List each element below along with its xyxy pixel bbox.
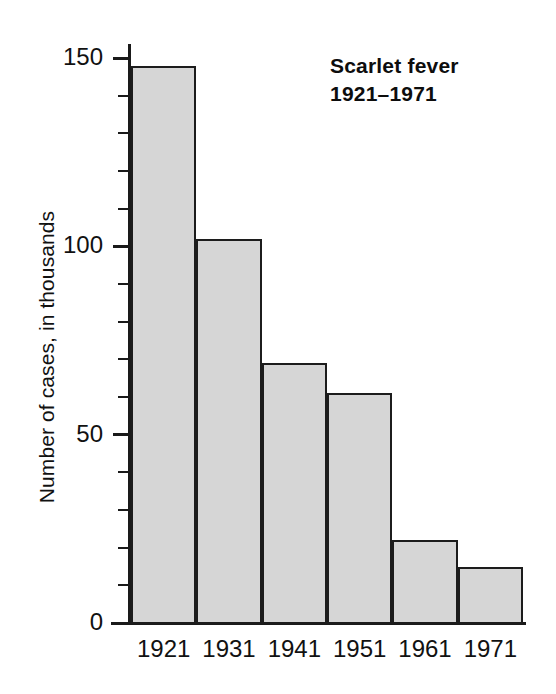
y-axis-tick-label: 0 [33, 610, 103, 634]
y-axis-tick-label-wrap: 100 [33, 246, 103, 247]
y-axis-tick-label-wrap: 0 [33, 623, 103, 624]
x-axis-tick-label-1951: 1951 [327, 636, 392, 661]
y-axis-minor-tick [118, 283, 131, 285]
x-axis-tick-label-1971: 1971 [458, 636, 523, 661]
scarlet-fever-bar-chart: Number of cases, in thousands 050100150 … [0, 0, 556, 694]
y-axis-minor-tick [118, 358, 131, 360]
y-axis-tick-label: 100 [33, 233, 103, 257]
y-axis-major-tick [113, 57, 131, 60]
bar-1931 [196, 239, 261, 624]
bar-1921 [131, 66, 196, 624]
y-axis-minor-tick [118, 170, 131, 172]
y-axis-minor-tick [118, 208, 131, 210]
x-axis-tick-label-1941: 1941 [262, 636, 327, 661]
y-axis-minor-tick [118, 132, 131, 134]
y-axis-minor-tick [118, 584, 131, 586]
y-axis-minor-tick [118, 471, 131, 473]
y-axis-minor-tick [118, 509, 131, 511]
y-axis-minor-tick [118, 396, 131, 398]
y-axis-major-tick [113, 433, 131, 436]
y-axis-tick-label-wrap: 50 [33, 435, 103, 436]
chart-title-block: Scarlet fever 1921–1971 [330, 52, 459, 107]
x-axis-tick-label-1961: 1961 [392, 636, 457, 661]
chart-title-line1: Scarlet fever [330, 52, 459, 80]
chart-title-line2: 1921–1971 [330, 80, 459, 108]
bar-1941 [262, 363, 327, 624]
y-axis-minor-tick [118, 547, 131, 549]
y-axis-major-tick [113, 622, 131, 625]
x-axis-tick-label-1931: 1931 [196, 636, 261, 661]
bar-1971 [458, 567, 523, 625]
x-axis-tick-label-1921: 1921 [131, 636, 196, 661]
y-axis-tick-label: 150 [33, 45, 103, 69]
y-axis-title: Number of cases, in thousands [35, 142, 59, 572]
plot-area [131, 44, 523, 624]
y-axis-minor-tick [118, 321, 131, 323]
y-axis-tick-label-wrap: 150 [33, 58, 103, 59]
y-axis-major-tick [113, 245, 131, 248]
bar-1951 [327, 393, 392, 624]
bar-1961 [392, 540, 457, 624]
y-axis-minor-tick [118, 95, 131, 97]
y-axis-tick-label: 50 [33, 422, 103, 446]
